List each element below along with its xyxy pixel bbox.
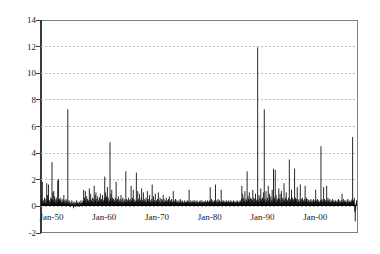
chart-container: -202468101214 Jan-50Jan-60Jan-70Jan-80Ja… [0, 0, 380, 254]
data-series-spikes [41, 21, 357, 232]
x-tick-label: Jan-00 [303, 212, 327, 222]
x-tick-label: Jan-60 [92, 212, 116, 222]
y-tick-label: 6 [0, 122, 36, 132]
y-tick-label: 2 [0, 175, 36, 185]
x-tick-label: Jan-50 [40, 212, 64, 222]
x-tick-label: Jan-70 [145, 212, 169, 222]
y-tick-label: 8 [0, 95, 36, 105]
y-tick-label: 12 [0, 42, 36, 52]
x-tick-label: Jan-90 [251, 212, 275, 222]
y-tick-label: 10 [0, 68, 36, 78]
x-tick-label: Jan-80 [198, 212, 222, 222]
x-axis-labels: Jan-50Jan-60Jan-70Jan-80Jan-90Jan-00 [0, 212, 380, 232]
y-tick-label: 0 [0, 201, 36, 211]
y-tick-label: 14 [0, 15, 36, 25]
y-tick-label: 4 [0, 148, 36, 158]
